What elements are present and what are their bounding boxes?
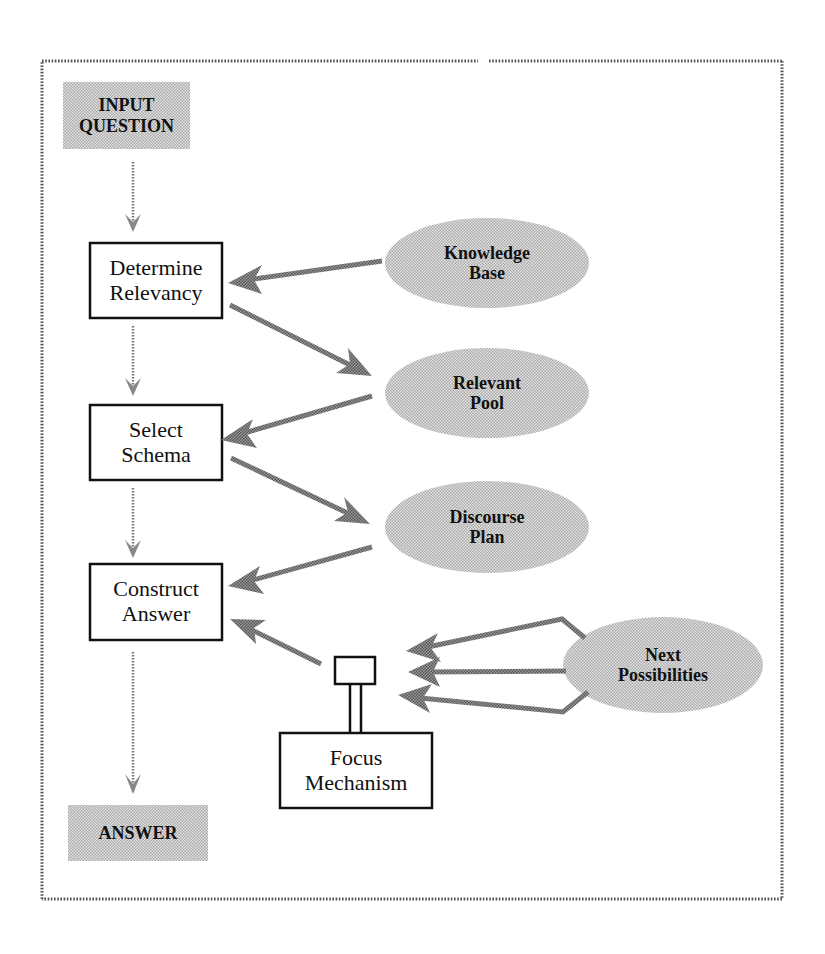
determine-relevancy-line1: Determine bbox=[110, 256, 203, 281]
relevant-pool-line2: Pool bbox=[470, 393, 504, 413]
knowledge-base-line1: Knowledge bbox=[444, 243, 530, 263]
focus-mechanism-line1: Focus bbox=[330, 746, 383, 771]
select-schema-line1: Select bbox=[129, 418, 183, 443]
knowledge-base-label: Knowledge Base bbox=[385, 218, 589, 308]
discourse-plan-label: Discourse Plan bbox=[385, 481, 589, 573]
input-question-label: INPUT QUESTION bbox=[63, 82, 190, 149]
next-possibilities-label: Next Possibilities bbox=[563, 617, 763, 713]
discourse-plan-line1: Discourse bbox=[450, 507, 525, 527]
determine-relevancy-line2: Relevancy bbox=[110, 281, 203, 306]
discourse-plan-line2: Plan bbox=[469, 527, 504, 547]
next-possibilities-line2: Possibilities bbox=[618, 665, 708, 685]
select-schema-label: Select Schema bbox=[90, 405, 222, 480]
relevant-pool-line1: Relevant bbox=[453, 373, 521, 393]
next-possibilities-line1: Next bbox=[645, 645, 681, 665]
determine-relevancy-label: Determine Relevancy bbox=[90, 243, 222, 318]
construct-answer-line2: Answer bbox=[122, 602, 190, 627]
knowledge-base-line2: Base bbox=[469, 263, 505, 283]
input-question-line2: QUESTION bbox=[79, 116, 174, 136]
focus-mechanism-line2: Mechanism bbox=[305, 771, 408, 796]
answer-line1: ANSWER bbox=[98, 823, 177, 843]
relevant-pool-label: Relevant Pool bbox=[385, 348, 589, 438]
input-question-line1: INPUT bbox=[98, 95, 154, 115]
construct-answer-line1: Construct bbox=[113, 577, 199, 602]
construct-answer-label: Construct Answer bbox=[90, 564, 222, 640]
select-schema-line2: Schema bbox=[121, 443, 191, 468]
answer-label: ANSWER bbox=[68, 805, 208, 861]
focus-probe-head bbox=[335, 657, 375, 684]
focus-mechanism-label: Focus Mechanism bbox=[280, 733, 432, 808]
